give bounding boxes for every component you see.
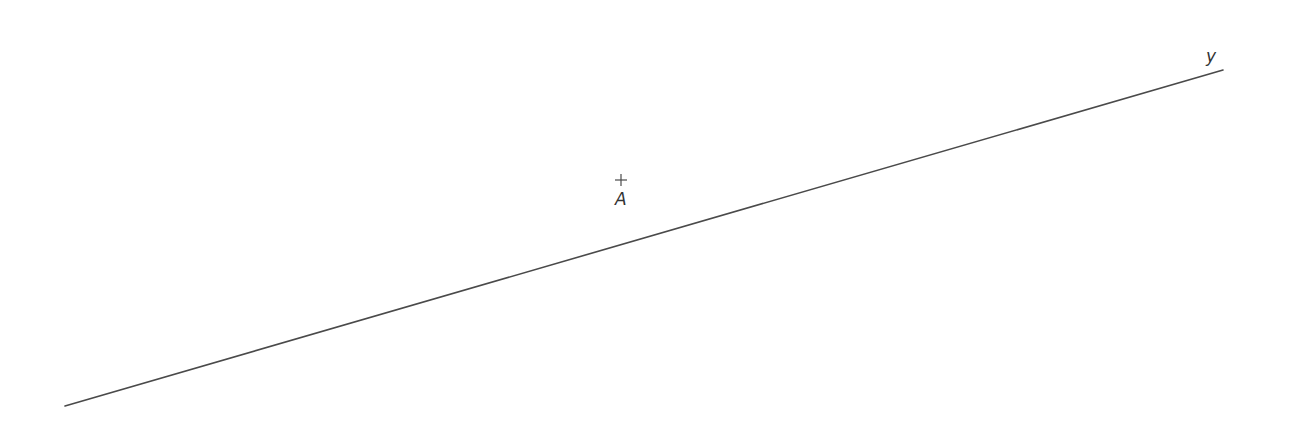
point-label-a: A bbox=[614, 189, 627, 209]
line-label-y: y bbox=[1205, 46, 1217, 66]
point-a-cross-marker-icon bbox=[615, 174, 627, 186]
line-y bbox=[65, 70, 1223, 406]
geometry-figure: y A bbox=[0, 0, 1292, 422]
